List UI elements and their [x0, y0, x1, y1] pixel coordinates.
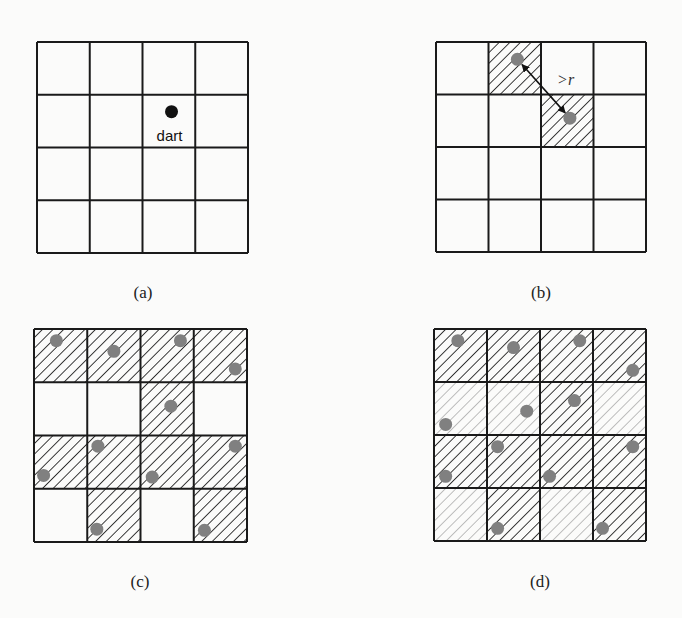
dart-point: [174, 334, 187, 347]
panel-a: dart: [37, 42, 248, 253]
dart-point: [164, 400, 177, 413]
dart-point: [511, 53, 524, 66]
dart-point: [573, 334, 586, 347]
panel-b: >r: [436, 42, 646, 252]
dart-point: [626, 440, 639, 453]
light-hatched-cell: [593, 382, 646, 435]
dart-point: [451, 334, 464, 347]
dart-label: dart: [157, 127, 184, 144]
dart-point: [229, 440, 242, 453]
caption-d: (d): [530, 572, 550, 592]
hatched-cell: [489, 42, 542, 95]
dart-point: [229, 362, 242, 375]
dart-point: [491, 440, 504, 453]
dart-point: [543, 470, 556, 483]
hatched-cell: [487, 329, 540, 382]
dart-point: [439, 418, 452, 431]
distance-label: >r: [557, 71, 575, 88]
dart-point: [520, 405, 533, 418]
dart-point: [568, 394, 581, 407]
dart-point: [50, 334, 63, 347]
dart-point: [626, 364, 639, 377]
caption-b: (b): [531, 283, 551, 303]
dart-point: [165, 105, 178, 118]
dart-point: [37, 469, 50, 482]
dart-throwing-figure: dart>r: [0, 0, 682, 618]
dart-point: [90, 523, 103, 536]
dart-point: [596, 522, 609, 535]
dart-point: [507, 341, 520, 354]
panel-c: [34, 329, 247, 542]
caption-a: (a): [134, 283, 153, 303]
dart-point: [146, 471, 159, 484]
panel-d: [434, 329, 646, 541]
hatched-cell: [540, 382, 593, 435]
light-hatched-cell: [540, 488, 593, 541]
dart-point: [198, 524, 211, 537]
light-hatched-cell: [434, 488, 487, 541]
dart-point: [91, 440, 104, 453]
dart-point: [491, 522, 504, 535]
dart-point: [107, 345, 120, 358]
dart-point: [439, 470, 452, 483]
dart-point: [563, 112, 576, 125]
caption-c: (c): [131, 572, 150, 592]
